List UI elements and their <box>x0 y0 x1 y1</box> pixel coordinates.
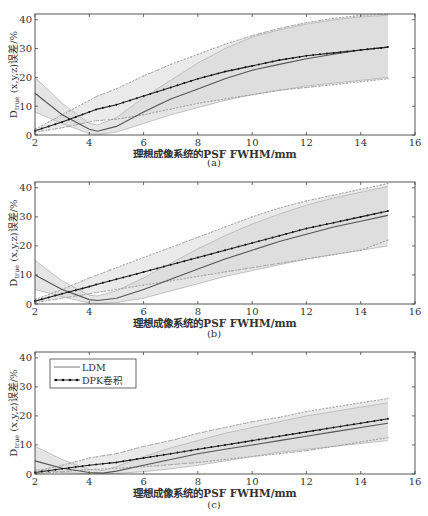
y-tick-label: 10 <box>19 101 32 112</box>
y-tick-label: 20 <box>19 410 32 421</box>
y-tick-label: 0 <box>26 130 32 141</box>
x-tick-label: 16 <box>409 306 422 317</box>
x-tick-label: 8 <box>195 306 201 317</box>
y-tick-label: 40 <box>19 352 32 363</box>
y-axis-label: Dtrue (x,y,z)误差/% <box>7 199 21 286</box>
x-tick-label: 12 <box>300 306 313 317</box>
x-tick-label: 4 <box>86 137 92 148</box>
x-tick-label: 12 <box>300 476 313 487</box>
y-axis-label: Dtrue (x,y,z)误差/% <box>7 369 21 456</box>
x-tick-label: 14 <box>354 137 367 148</box>
y-tick-label: 20 <box>19 240 32 251</box>
x-tick-label: 2 <box>32 306 38 317</box>
chart-panel-b: 246810121416010203040理想成像系统的PSF FWHM/mmD… <box>0 172 428 344</box>
caption-a: (a) <box>0 157 428 168</box>
x-tick-label: 16 <box>409 137 422 148</box>
x-tick-label: 10 <box>246 137 259 148</box>
y-tick-label: 30 <box>19 381 32 392</box>
y-tick-label: 20 <box>19 72 32 83</box>
legend-dpk-label: DPK卷积 <box>82 375 123 386</box>
x-tick-label: 10 <box>246 476 259 487</box>
y-tick-label: 40 <box>19 14 32 25</box>
chart-panel-c: 246810121416010203040理想成像系统的PSF FWHM/mmD… <box>0 344 428 516</box>
caption-c: (c) <box>0 499 428 510</box>
x-tick-label: 4 <box>86 306 92 317</box>
x-tick-label: 6 <box>140 306 146 317</box>
x-tick-label: 14 <box>354 476 367 487</box>
chart-a: 246810121416010203040理想成像系统的PSF FWHM/mmD… <box>0 0 428 158</box>
caption-b: (b) <box>0 328 428 339</box>
legend-ldm-label: LDM <box>82 362 106 373</box>
x-tick-label: 6 <box>140 476 146 487</box>
x-tick-label: 2 <box>32 476 38 487</box>
x-tick-label: 16 <box>409 476 422 487</box>
dpk-uncertainty-band <box>35 14 388 132</box>
x-tick-label: 8 <box>195 137 201 148</box>
x-tick-label: 8 <box>195 476 201 487</box>
x-axis-label: 理想成像系统的PSF FWHM/mm <box>133 487 296 499</box>
y-tick-label: 0 <box>26 469 32 480</box>
y-tick-label: 10 <box>19 439 32 450</box>
chart-c: 246810121416010203040理想成像系统的PSF FWHM/mmD… <box>0 344 428 502</box>
y-axis-label: Dtrue (x,y,z)误差/% <box>7 31 21 118</box>
x-tick-label: 2 <box>32 137 38 148</box>
y-tick-label: 0 <box>26 299 32 310</box>
x-tick-label: 6 <box>140 137 146 148</box>
x-tick-label: 12 <box>300 137 313 148</box>
chart-panel-a: 246810121416010203040理想成像系统的PSF FWHM/mmD… <box>0 0 428 172</box>
x-tick-label: 10 <box>246 306 259 317</box>
x-tick-label: 14 <box>354 306 367 317</box>
x-tick-label: 4 <box>86 476 92 487</box>
chart-b: 246810121416010203040理想成像系统的PSF FWHM/mmD… <box>0 172 428 330</box>
y-tick-label: 10 <box>19 269 32 280</box>
legend: LDMDPK卷积 <box>50 359 136 388</box>
dpk-uncertainty-band <box>35 184 388 303</box>
y-tick-label: 30 <box>19 43 32 54</box>
y-tick-label: 30 <box>19 211 32 222</box>
y-tick-label: 40 <box>19 182 32 193</box>
